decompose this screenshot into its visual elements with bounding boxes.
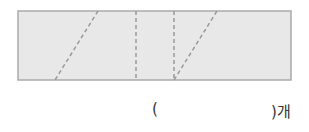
answer-row: ( )개 [0, 100, 309, 122]
unit-label: 개 [277, 103, 291, 121]
open-parenthesis: ( [152, 100, 158, 118]
answer-blank[interactable] [164, 102, 268, 120]
close-parenthesis-with-unit: )개 [271, 100, 291, 121]
rectangle-shape [18, 11, 291, 80]
cut-rectangle-figure [0, 0, 309, 95]
